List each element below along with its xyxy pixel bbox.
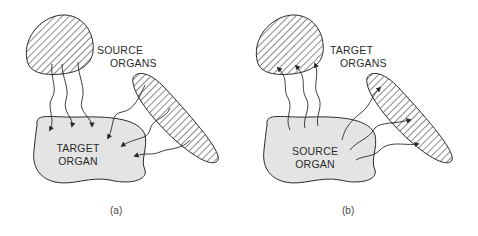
panel-a-outer-label-line1: SOURCE (97, 44, 143, 56)
diagram-canvas (0, 0, 478, 236)
panel-a-center-label-line1: TARGET (56, 142, 100, 154)
panel-b-center-label-line1: SOURCE (292, 145, 338, 157)
figure: SOURCE ORGANS TARGET ORGAN (a) TARGET OR… (0, 0, 478, 236)
panel-b-center-label-line2: ORGAN (292, 158, 338, 170)
source-organ-ellipse-a (133, 73, 219, 162)
panel-a-center-label-line2: ORGAN (56, 155, 100, 167)
target-organ-ellipse-b (367, 73, 453, 162)
source-organ-head-a (26, 15, 93, 75)
panel-b-outer-label-line1: TARGET (330, 44, 373, 56)
target-organ-head-b (256, 15, 323, 75)
panel-b (256, 15, 452, 183)
panel-b-caption: (b) (342, 205, 354, 216)
panel-a-outer-label-line2: ORGANS (110, 57, 157, 69)
panel-b-outer-label-line2: ORGANS (340, 57, 387, 69)
panel-a-caption: (a) (110, 205, 122, 216)
